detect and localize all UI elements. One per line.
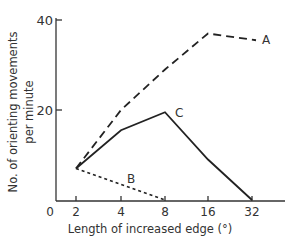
series-label-B: B [127, 172, 135, 186]
y-tick-label: 40 [36, 13, 53, 28]
axes [56, 18, 285, 201]
line-chart: 40 20 0 2 4 8 16 32 Length of increased … [0, 0, 298, 240]
series-line-C [76, 112, 252, 200]
x-tick-label: 8 [161, 205, 169, 219]
series-label-C: C [175, 106, 183, 120]
y-tick-label: 20 [36, 103, 53, 118]
y-axis-title-line1: No. of orienting movements [6, 32, 20, 193]
y-axis-title-line2: per minute [22, 80, 36, 143]
x-axis-title: Length of increased edge (°) [68, 222, 233, 236]
series-label-A: A [262, 33, 271, 47]
x-tick-label: 4 [117, 205, 125, 219]
x-tick-label: 0 [46, 205, 54, 219]
x-tick-label: 16 [200, 205, 215, 219]
series-line-A [76, 34, 256, 169]
x-tick-label: 32 [244, 205, 259, 219]
x-tick-label: 2 [72, 205, 80, 219]
series-line-B [76, 169, 165, 201]
